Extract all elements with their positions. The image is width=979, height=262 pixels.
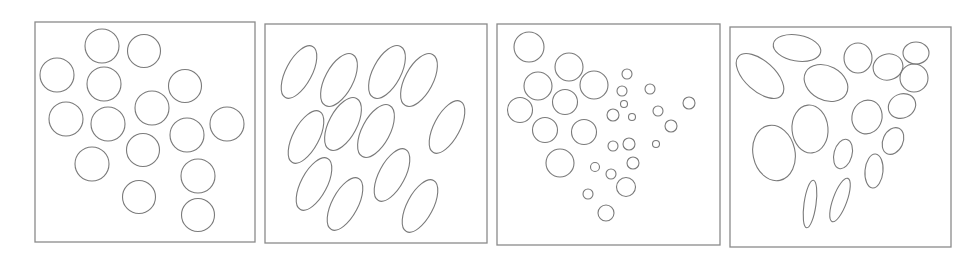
circle-shape [546, 149, 574, 177]
circle-shape [665, 120, 677, 132]
circle-shape [621, 101, 628, 108]
circle-shape [627, 157, 639, 169]
circle-shape [583, 189, 593, 199]
ellipse-shape [884, 89, 920, 123]
ellipse-shape [878, 124, 908, 158]
circle-shape [508, 98, 533, 123]
circle-shape [87, 67, 121, 101]
circle-shape [85, 29, 119, 63]
ellipse-shape [393, 48, 445, 112]
figure-canvas [0, 0, 979, 262]
panel-frame [35, 22, 255, 242]
ellipse-shape [289, 152, 339, 215]
circle-shape [123, 181, 156, 214]
ellipse-shape [830, 137, 855, 171]
ellipse-shape [422, 95, 472, 158]
four-panel-shape-figure [0, 0, 979, 262]
circle-shape [182, 199, 215, 232]
circle-shape [533, 118, 558, 143]
panel-4-mixed-ellipses [728, 27, 951, 247]
circle-shape [169, 70, 202, 103]
circle-shape [553, 90, 578, 115]
circle-shape [514, 32, 544, 62]
ellipse-shape [790, 104, 830, 155]
circle-shape [75, 147, 109, 181]
ellipse-shape [281, 105, 331, 168]
circle-shape [210, 107, 244, 141]
circle-shape [91, 107, 125, 141]
circle-shape [170, 118, 204, 152]
circle-shape [629, 114, 636, 121]
ellipse-shape [320, 172, 370, 235]
circle-shape [49, 102, 83, 136]
circle-shape [623, 138, 635, 150]
ellipse-shape [350, 99, 402, 163]
circle-shape [128, 35, 161, 68]
ellipse-shape [903, 42, 929, 64]
circle-shape [591, 163, 600, 172]
ellipse-shape [361, 40, 413, 104]
panel-frame [265, 24, 487, 243]
ellipse-shape [848, 97, 886, 138]
circle-shape [653, 141, 660, 148]
circle-shape [555, 53, 583, 81]
panel-1-uniform-circles [35, 22, 255, 242]
circle-shape [608, 141, 618, 151]
ellipse-shape [313, 48, 365, 112]
circle-shape [598, 205, 614, 221]
panel-2-oriented-ellipses [265, 24, 487, 243]
circle-shape [572, 120, 597, 145]
ellipse-shape [801, 179, 820, 228]
circle-shape [683, 97, 695, 109]
circle-shape [900, 64, 928, 92]
circle-shape [580, 71, 608, 99]
circle-shape [617, 178, 636, 197]
panel-3-mixed-size-circles [497, 24, 720, 245]
ellipse-shape [728, 45, 791, 106]
circle-shape [617, 86, 627, 96]
ellipse-shape [274, 40, 324, 103]
circle-shape [607, 109, 619, 121]
ellipse-shape [317, 92, 369, 156]
circle-shape [135, 91, 169, 125]
ellipse-shape [826, 176, 855, 224]
circle-shape [622, 69, 632, 79]
circle-shape [645, 84, 655, 94]
circle-shape [524, 72, 552, 100]
circle-shape [127, 134, 160, 167]
panel-frame [497, 24, 720, 245]
circle-shape [653, 106, 663, 116]
circle-shape [606, 169, 616, 179]
circle-shape [40, 58, 74, 92]
circle-shape [181, 159, 215, 193]
ellipse-shape [771, 31, 823, 65]
ellipse-shape [864, 153, 885, 188]
ellipse-shape [844, 43, 872, 73]
